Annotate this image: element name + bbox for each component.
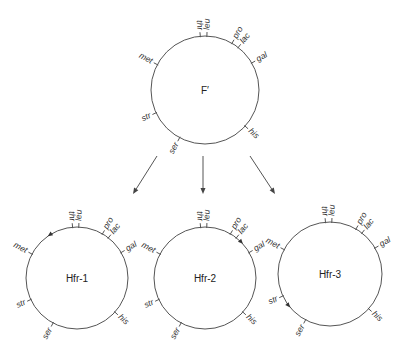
gene-label-met: met [140,240,158,256]
chromosome-hfr-2: thrleuprolacgalhisserstrmetHfr-2 [140,209,267,341]
chromosome-f-prime: thrleuprolacgalhisserstrmetF′ [138,18,270,155]
gene-label-leu: leu [201,209,211,221]
f-prime-chromosome: thrleuprolacgalhisserstrmetF′ [138,18,270,155]
arrow-shaft [250,156,272,189]
gene-label-str: str [140,110,154,124]
origin-of-transfer-arrow-icon [285,302,290,307]
gene-label-ser: ser [40,325,55,341]
gene-label-leu: leu [73,209,83,221]
gene-label-leu: leu [326,204,336,216]
derivation-arrows [133,156,275,194]
arrowhead-icon [270,188,275,194]
gene-label-leu: leu [201,18,211,30]
chromosome-hfr-1: thrleuprolacgalhisserstrmetHfr-1 [12,209,139,341]
hfr-formation-diagram: thrleuprolacgalhisserstrmetF′ thrleuprol… [0,0,402,363]
gene-marker-his [368,308,372,311]
gene-label-ser: ser [292,321,307,337]
gene-marker-his [114,311,118,314]
gene-label-str: str [142,296,156,310]
arrow-shaft [136,156,157,189]
gene-label-gal: gal [251,238,267,253]
gene-label-his: his [247,126,262,141]
gene-label-his: his [245,312,260,327]
strain-label: Hfr-1 [66,273,89,284]
gene-label-ser: ser [168,325,183,341]
gene-label-ser: ser [166,139,181,155]
gene-label-met: met [264,235,282,251]
arrowhead-icon [201,188,206,194]
arrow-3 [250,156,275,194]
hfr-strains: thrleuprolacgalhisserstrmetHfr-1thrleupr… [12,204,393,341]
chromosome-hfr-3: thrleuprolacgalhisserstrmetHfr-3 [264,204,393,337]
strain-label: Hfr-3 [319,269,342,280]
strain-label: Hfr-2 [194,273,217,284]
strain-label: F′ [201,85,209,96]
gene-label-gal: gal [254,49,270,64]
gene-label-his: his [370,309,385,324]
gene-label-met: met [138,50,156,66]
arrowhead-icon [133,188,138,194]
gene-label-gal: gal [377,234,393,249]
arrow-2 [201,156,206,194]
gene-label-his: his [117,312,132,327]
gene-label-gal: gal [123,238,139,253]
arrow-1 [133,156,157,194]
gene-marker-his [242,311,246,314]
gene-marker-his [244,125,248,128]
gene-label-str: str [14,296,28,310]
gene-label-met: met [12,240,30,256]
gene-label-str: str [266,293,280,307]
